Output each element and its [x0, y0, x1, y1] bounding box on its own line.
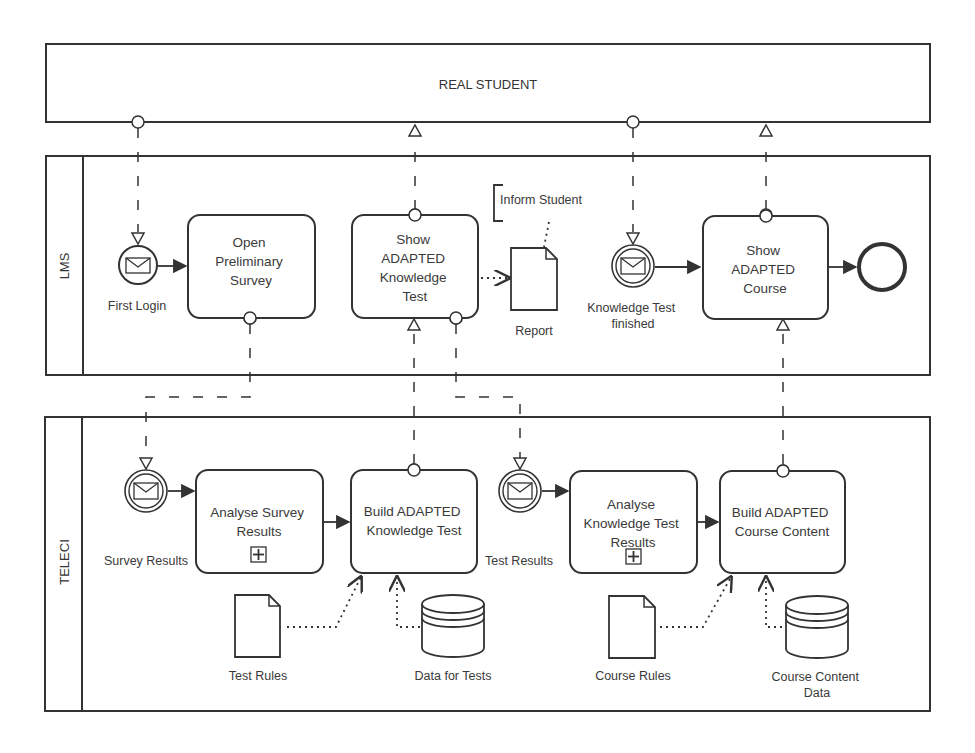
subprocess-analyse-survey-results[interactable]: Analyse Survey Results: [196, 470, 323, 573]
task-label-line: Open: [233, 235, 266, 250]
data-store-label: Data for Tests: [415, 669, 492, 683]
data-object-label: Test Rules: [229, 669, 287, 683]
task-show-adapted-knowledge-test[interactable]: Show ADAPTED Knowledge Test: [352, 215, 478, 318]
data-object-label: Course Rules: [595, 669, 671, 683]
pool-label-teleci: TELECI: [57, 539, 72, 585]
pool-real-student: REAL STUDENT: [46, 44, 930, 122]
pool-label-lms: LMS: [57, 252, 72, 279]
task-label-line: Course Content: [735, 524, 830, 539]
task-label-line: Test: [403, 289, 428, 304]
task-label-line: Results: [236, 524, 281, 539]
envelope-icon: [134, 483, 158, 499]
data-object-label: Report: [515, 324, 553, 338]
envelope-icon: [621, 258, 645, 274]
task-label-line: Show: [746, 243, 780, 258]
task-label-line: Preliminary: [215, 254, 283, 269]
pool-label-real-student: REAL STUDENT: [439, 77, 538, 92]
task-label-line: Survey: [230, 273, 272, 288]
envelope-icon: [126, 258, 150, 273]
end-event[interactable]: [859, 244, 905, 290]
task-show-adapted-course[interactable]: Show ADAPTED Course: [703, 216, 828, 319]
subprocess-analyse-knowledge-test-results[interactable]: Analyse Knowledge Test Results: [570, 471, 697, 573]
task-label-line: Show: [396, 232, 430, 247]
data-store-label-line: Course Content: [771, 670, 859, 684]
event-label-line: finished: [611, 317, 654, 331]
task-label-line: ADAPTED: [381, 251, 445, 266]
task-open-preliminary-survey[interactable]: Open Preliminary Survey: [188, 215, 315, 318]
task-label-line: Knowledge Test: [584, 516, 679, 531]
event-label: Survey Results: [104, 554, 188, 568]
expand-plus-icon[interactable]: [251, 547, 266, 562]
envelope-icon: [508, 483, 532, 499]
event-label: Test Results: [485, 554, 553, 568]
task-label-line: Analyse: [607, 497, 655, 512]
task-label-line: ADAPTED: [731, 262, 795, 277]
task-build-adapted-course-content[interactable]: Build ADAPTED Course Content: [720, 471, 845, 573]
task-label-line: Knowledge Test: [366, 523, 461, 538]
task-build-adapted-knowledge-test[interactable]: Build ADAPTED Knowledge Test: [351, 470, 477, 573]
start-event-label: First Login: [108, 299, 166, 313]
task-label-line: Knowledge: [380, 270, 447, 285]
data-store-label-line: Data: [804, 686, 830, 700]
data-store-data-for-tests[interactable]: Data for Tests: [415, 595, 492, 683]
event-label-line: Knowledge Test: [587, 301, 676, 315]
data-object-report[interactable]: Report: [511, 248, 557, 338]
task-label-line: Analyse Survey: [210, 505, 304, 520]
task-label-line: Course: [743, 281, 787, 296]
data-object-test-rules[interactable]: Test Rules: [229, 595, 287, 683]
task-label-line: Build ADAPTED: [732, 505, 829, 520]
bpmn-diagram: REAL STUDENT LMS TELECI: [0, 0, 975, 753]
task-label-line: Build ADAPTED: [364, 504, 461, 519]
expand-plus-icon[interactable]: [626, 549, 641, 564]
task-label-line: Results: [610, 535, 655, 550]
annotation-text: Inform Student: [500, 193, 583, 207]
